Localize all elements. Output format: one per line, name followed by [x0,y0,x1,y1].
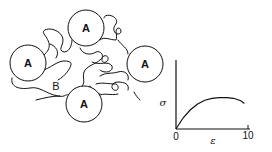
x-tick-label-0: 0 [173,132,179,142]
particle-a-4-label: A [80,99,88,110]
diagram-canvas [0,0,272,152]
stress-strain-chart [176,60,250,129]
y-axis-label: σ [160,98,167,108]
particle-a-2-label: A [82,23,90,34]
matrix-b-label: B [52,81,59,92]
particle-a-1-label: A [24,58,32,69]
x-tick-label-10: 10 [242,131,253,141]
stress-strain-curve [176,98,244,129]
particle-a-3-label: A [141,59,149,70]
x-axis-label: ε [210,136,215,146]
